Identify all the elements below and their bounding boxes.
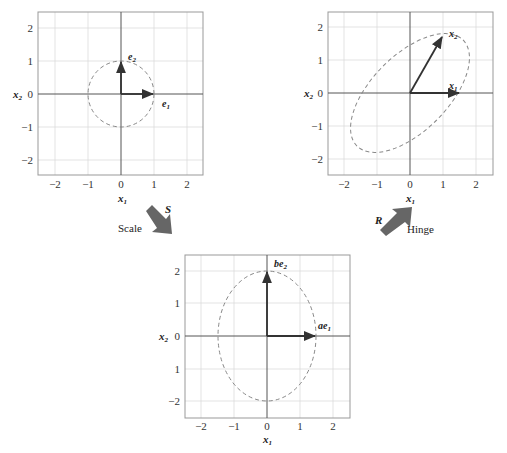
svg-text:1: 1 xyxy=(440,178,446,190)
svg-text:1: 1 xyxy=(28,55,34,67)
svg-text:−1: −1 xyxy=(82,178,94,190)
matrix-R-label: R xyxy=(374,214,382,226)
svg-text:2: 2 xyxy=(473,178,479,190)
transform-scale: S Scale xyxy=(118,203,172,234)
svg-text:0: 0 xyxy=(175,330,181,342)
svg-text:−1: −1 xyxy=(228,420,240,432)
vector-label-x2: x2 xyxy=(448,28,458,41)
svg-text:−1: −1 xyxy=(371,178,383,190)
svg-text:−2: −2 xyxy=(168,395,180,407)
y-axis-label: x2 xyxy=(158,330,169,344)
transform-hinge: R Hinge xyxy=(374,207,434,236)
y-axis-label: x2 xyxy=(12,88,23,102)
y-axis-label: x2 xyxy=(303,87,314,101)
panel-scaled: be2 ae1 −2−1012 2101−2 x1 x2 xyxy=(158,255,350,447)
svg-text:2: 2 xyxy=(184,178,190,190)
svg-text:2: 2 xyxy=(175,265,181,277)
svg-text:−1: −1 xyxy=(21,121,33,133)
svg-text:2: 2 xyxy=(330,420,336,432)
svg-text:−2: −2 xyxy=(49,178,61,190)
svg-text:1: 1 xyxy=(151,178,157,190)
svg-text:0: 0 xyxy=(264,420,270,432)
svg-text:0: 0 xyxy=(318,87,324,99)
hinge-caption: Hinge xyxy=(407,223,434,235)
x-axis-label: x1 xyxy=(405,192,415,206)
svg-text:−2: −2 xyxy=(21,154,33,166)
svg-text:−2: −2 xyxy=(338,178,350,190)
vector-x2 xyxy=(410,37,442,93)
panel-original: e2 e1 −2−1012 210−1−2 x1 x2 xyxy=(12,12,203,206)
svg-text:1: 1 xyxy=(175,297,181,309)
svg-text:2: 2 xyxy=(28,22,34,34)
matrix-S-label: S xyxy=(165,203,171,215)
svg-text:1: 1 xyxy=(318,54,324,66)
svg-text:−2: −2 xyxy=(195,420,207,432)
panel-rotated: x2 x1 −2−1012 210−1−2 x1 x2 xyxy=(303,12,493,206)
scale-caption: Scale xyxy=(118,222,142,234)
svg-text:0: 0 xyxy=(28,88,34,100)
svg-text:−1: −1 xyxy=(311,120,323,132)
svg-text:−2: −2 xyxy=(311,153,323,165)
x-axis-label: x1 xyxy=(262,433,272,447)
vector-label-e1: e1 xyxy=(162,98,170,111)
svg-text:0: 0 xyxy=(118,178,124,190)
x-axis-label: x1 xyxy=(117,192,127,206)
svg-text:1: 1 xyxy=(297,420,303,432)
vector-label-ae1: ae1 xyxy=(318,320,331,333)
vector-label-x1: x1 xyxy=(448,80,458,93)
svg-text:0: 0 xyxy=(407,178,413,190)
vector-label-be2: be2 xyxy=(274,258,287,271)
svg-text:2: 2 xyxy=(318,21,324,33)
svg-text:1: 1 xyxy=(175,363,181,375)
